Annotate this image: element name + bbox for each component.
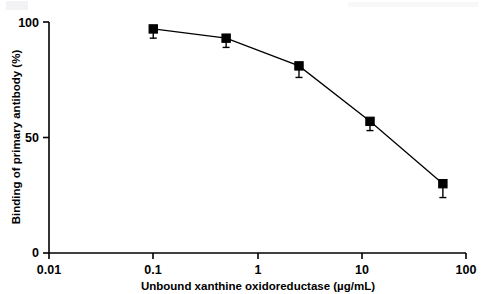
- x-tick-label-10: 10: [355, 263, 369, 277]
- data-point: [366, 117, 374, 130]
- axis-spines: [49, 22, 466, 253]
- data-marker: [295, 62, 303, 70]
- y-axis-ticks: [43, 22, 49, 253]
- y-tick-label-50: 50: [25, 131, 39, 145]
- data-point: [295, 62, 303, 78]
- data-marker: [222, 34, 230, 42]
- y-tick-label-0: 0: [32, 246, 39, 260]
- data-marker: [439, 180, 447, 188]
- chart-figure: 0 50 100 0.01 0.1 1 10 100 Unbound xanth…: [0, 0, 484, 294]
- data-point: [222, 34, 230, 47]
- series-line-0: [153, 29, 443, 184]
- y-tick-label-100: 100: [18, 16, 39, 30]
- x-axis-tick-labels: 0.01 0.1 1 10 100: [37, 263, 477, 277]
- x-axis-ticks: [49, 253, 466, 259]
- data-marker: [149, 25, 157, 33]
- data-series-layer: [149, 25, 447, 198]
- x-tick-label-1: 1: [255, 263, 262, 277]
- chart-plot-area: 0 50 100 0.01 0.1 1 10 100 Unbound xanth…: [0, 0, 484, 294]
- x-tick-label-100: 100: [456, 263, 477, 277]
- data-marker: [366, 117, 374, 125]
- x-tick-label-0p1: 0.1: [144, 263, 161, 277]
- data-point: [439, 180, 447, 198]
- y-axis-title: Binding of primary antibody (%): [10, 50, 22, 225]
- x-axis-title: Unbound xanthine oxidoreductase (µg/mL): [141, 280, 375, 292]
- data-point: [149, 25, 157, 38]
- x-tick-label-0p01: 0.01: [37, 263, 61, 277]
